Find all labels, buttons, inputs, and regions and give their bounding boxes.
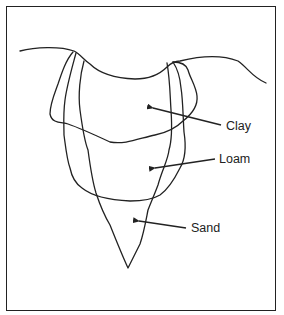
clay-label: Clay [226, 120, 251, 133]
sand-label: Sand [191, 222, 220, 235]
loam-pointer-arrow [155, 159, 215, 168]
clay-pointer-arrow [153, 108, 221, 125]
ground-surface-line [20, 48, 266, 83]
sand-pointer-arrow [139, 221, 186, 228]
loam-label: Loam [219, 153, 250, 166]
sand-layer-outline [79, 61, 171, 268]
